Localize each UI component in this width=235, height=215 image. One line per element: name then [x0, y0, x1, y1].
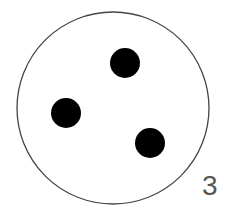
dot-top [110, 48, 140, 78]
dot-bottom-right [135, 128, 165, 158]
dot-left [51, 98, 81, 128]
count-label: 3 [202, 172, 218, 200]
dot-diagram [0, 0, 235, 215]
outer-circle [17, 12, 209, 204]
